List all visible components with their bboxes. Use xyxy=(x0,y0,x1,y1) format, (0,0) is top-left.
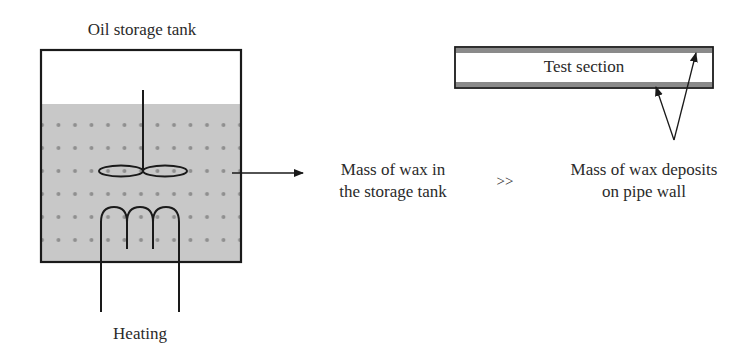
wax-layer-bottom xyxy=(456,82,712,87)
heating-label: Heating xyxy=(100,323,180,345)
wax-layer-top xyxy=(456,48,712,53)
pipe-wax-deposit-text: Mass of wax deposits on pipe wall xyxy=(554,159,734,203)
pipe-wax-deposit-line1: Mass of wax deposits xyxy=(554,159,734,181)
wax-particles xyxy=(42,104,240,261)
pipe-wax-deposit-line2: on pipe wall xyxy=(554,181,734,203)
oil-storage-tank xyxy=(41,50,241,262)
tank-wax-mass-line1: Mass of wax in xyxy=(307,159,479,181)
pipe-label: Test section xyxy=(455,56,713,78)
much-greater-than-operator: >> xyxy=(490,170,520,192)
tank-wax-mass-text: Mass of wax in the storage tank xyxy=(307,159,479,203)
tank-wax-mass-line2: the storage tank xyxy=(307,181,479,203)
tank-title: Oil storage tank xyxy=(62,19,222,41)
